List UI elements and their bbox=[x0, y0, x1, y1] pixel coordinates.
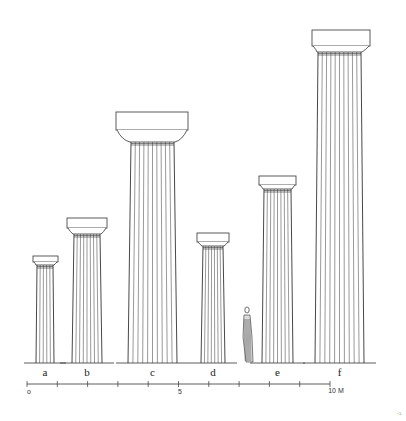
abacus bbox=[312, 30, 370, 46]
column-a bbox=[24, 256, 66, 363]
column-label-e: e bbox=[275, 366, 280, 378]
echinus bbox=[117, 130, 187, 142]
abacus bbox=[116, 112, 188, 130]
abacus bbox=[259, 176, 296, 185]
column-label-f: f bbox=[338, 366, 342, 378]
column-label-a: a bbox=[43, 366, 48, 378]
column-d bbox=[189, 233, 237, 363]
column-label-b: b bbox=[84, 366, 90, 378]
page-mark: ·¹ bbox=[397, 410, 402, 417]
human-figure-icon bbox=[243, 307, 253, 362]
scale-label-zero: o bbox=[27, 388, 31, 395]
scale-label-ten: 10 M bbox=[328, 387, 344, 394]
column-label-c: c bbox=[150, 366, 155, 378]
column-e bbox=[250, 176, 305, 363]
scale-ten-value: 10 bbox=[328, 387, 336, 394]
echinus bbox=[198, 242, 228, 246]
abacus bbox=[67, 218, 107, 228]
column-label-d: d bbox=[210, 366, 216, 378]
echinus bbox=[34, 262, 57, 265]
echinus bbox=[260, 185, 295, 189]
echinus bbox=[68, 228, 106, 234]
column-f bbox=[303, 30, 376, 363]
scale-unit: M bbox=[338, 387, 344, 394]
scale-label-five: 5 bbox=[178, 388, 182, 395]
column-c bbox=[116, 112, 189, 363]
column-b bbox=[60, 218, 114, 363]
abacus bbox=[197, 233, 229, 242]
scale-bar bbox=[27, 381, 330, 387]
column-elevations-drawing bbox=[0, 0, 406, 421]
abacus bbox=[33, 256, 58, 262]
echinus bbox=[313, 46, 369, 52]
